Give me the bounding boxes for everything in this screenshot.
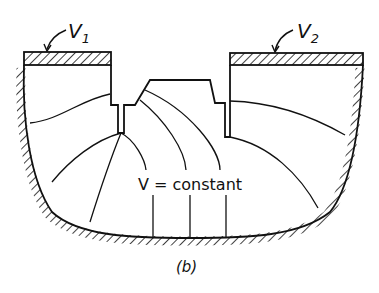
grounded-container [21, 65, 363, 241]
electrode-v2 [230, 53, 363, 65]
figure-caption: (b) [176, 258, 197, 276]
label-v1: V1 [44, 19, 90, 51]
electrode-v1 [24, 52, 111, 65]
svg-text:V2: V2 [297, 19, 319, 46]
equipotential-lines [30, 90, 345, 238]
equipotential-annotation: V = constant [138, 175, 242, 194]
svg-text:V1: V1 [68, 19, 90, 46]
center-conductor [111, 65, 230, 137]
electrostatic-field-diagram: V1 V2 V = constant (b) [0, 0, 379, 293]
label-v2: V2 [272, 19, 319, 52]
